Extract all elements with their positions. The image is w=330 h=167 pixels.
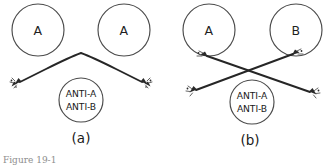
panel-b-cell-left: A bbox=[183, 4, 235, 56]
panel-b-cell-right: B bbox=[270, 4, 322, 56]
panel-a-cell-right: A bbox=[98, 4, 150, 56]
arrowhead-triangle bbox=[309, 88, 317, 95]
spark-dot bbox=[301, 50, 303, 52]
panel-a: A A bbox=[10, 4, 152, 146]
panel-a-arrowhead-right bbox=[141, 78, 153, 88]
cell-label: A bbox=[34, 23, 43, 38]
serum-label-anti-b: ANTI-B bbox=[237, 103, 267, 114]
spark-dot bbox=[145, 86, 147, 88]
panel-a-label: (a) bbox=[72, 130, 91, 146]
spark-tick bbox=[186, 91, 190, 92]
spark-tick bbox=[149, 82, 153, 83]
spark-dot bbox=[198, 52, 200, 54]
spark-dot bbox=[11, 80, 13, 82]
panel-b-serum-circle: ANTI-A ANTI-B bbox=[230, 80, 274, 124]
figure-caption-clip: Figure 19-1 bbox=[3, 156, 123, 167]
spark-dot bbox=[318, 90, 320, 92]
cell-label: A bbox=[205, 23, 214, 38]
panel-a-arrowhead-left bbox=[10, 78, 22, 88]
spark-tick bbox=[314, 95, 317, 98]
spark-tick bbox=[188, 86, 192, 89]
serum-label-anti-a: ANTI-A bbox=[237, 90, 268, 101]
cell-label: A bbox=[120, 23, 129, 38]
blood-typing-diagram: A A bbox=[0, 0, 330, 167]
spark-dot bbox=[187, 88, 189, 90]
panel-b-arrowhead-bottom-left bbox=[186, 86, 197, 96]
figure-caption: Figure 19-1 bbox=[3, 156, 123, 166]
serum-label-anti-a: ANTI-A bbox=[66, 88, 97, 99]
spark-tick bbox=[147, 78, 150, 81]
figure-container: A A bbox=[0, 0, 330, 167]
spark-tick bbox=[10, 82, 14, 83]
panel-b-arrowhead-bottom-right bbox=[309, 88, 320, 98]
spark-tick bbox=[316, 93, 320, 94]
panel-a-serum-circle: ANTI-A ANTI-B bbox=[59, 78, 103, 122]
spark-dot bbox=[150, 80, 152, 82]
serum-label-anti-b: ANTI-B bbox=[66, 101, 96, 112]
spark-tick bbox=[315, 88, 319, 91]
arrowhead-triangle bbox=[190, 86, 198, 93]
spark-dot bbox=[15, 86, 17, 88]
panel-b: A B bbox=[183, 4, 322, 148]
spark-tick bbox=[12, 78, 15, 81]
spark-tick bbox=[190, 93, 193, 96]
cell-label: B bbox=[292, 23, 301, 38]
panel-a-cell-left: A bbox=[12, 4, 64, 56]
panel-b-label: (b) bbox=[240, 132, 259, 148]
